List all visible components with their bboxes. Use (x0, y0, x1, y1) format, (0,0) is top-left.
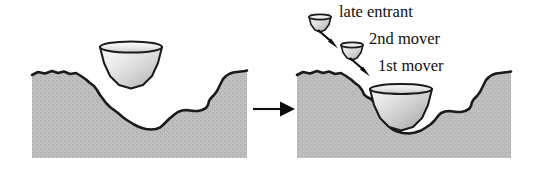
second-mover-arrow (350, 58, 370, 77)
left-panel-graphic (0, 0, 260, 174)
landscape-evolution-figure: late entrant 2nd mover 1st mover (0, 0, 534, 174)
label-late-entrant: late entrant (339, 4, 413, 21)
right-panel-graphic (274, 0, 534, 174)
label-first-mover: 1st mover (378, 58, 444, 75)
late-entrant-arrow (318, 30, 338, 49)
label-second-mover: 2nd mover (369, 31, 440, 48)
late-entrant-bowl (309, 14, 331, 32)
right-panel (274, 0, 534, 174)
left-panel (0, 0, 260, 174)
unsettled-firm-bowl (100, 41, 162, 88)
second-mover-bowl (341, 42, 363, 60)
